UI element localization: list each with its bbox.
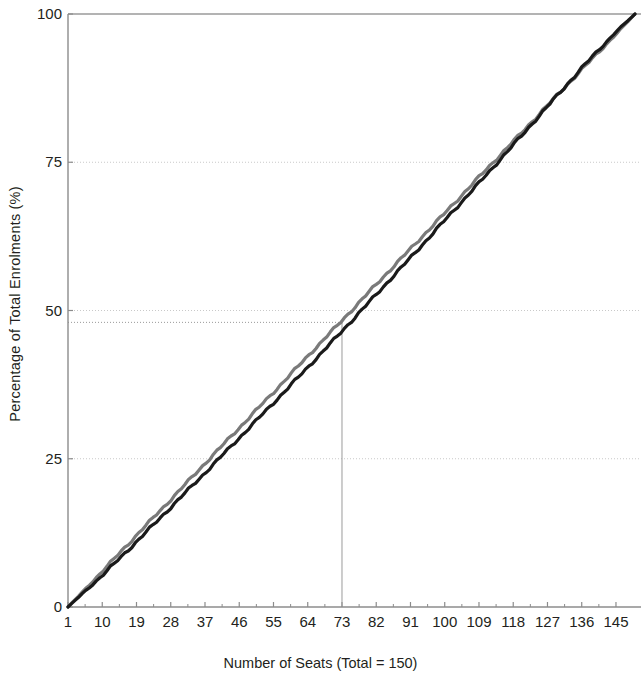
x-tick-label-64: 64 [299,614,316,629]
data-series [68,14,635,607]
x-axis-tick-labels: 110192837465564738291100109118127136145 [0,614,641,642]
plot-svg [0,0,641,683]
x-tick-label-1: 1 [64,614,72,629]
x-axis-title: Number of Seats (Total = 150) [0,655,641,671]
x-tick-label-46: 46 [231,614,248,629]
x-tick-label-82: 82 [368,614,385,629]
x-tick-label-118: 118 [501,614,525,629]
x-tick-label-28: 28 [162,614,179,629]
x-tick-label-127: 127 [535,614,560,629]
x-tick-label-136: 136 [569,614,594,629]
x-tick-label-109: 109 [466,614,491,629]
gridlines [68,14,641,459]
x-tick-label-73: 73 [334,614,351,629]
cumulative-enrolment-chart: Percentage of Total Enrolments (%) 10075… [0,0,641,683]
x-tick-label-10: 10 [94,614,111,629]
x-tick-label-145: 145 [603,614,628,629]
x-tick-label-19: 19 [128,614,145,629]
plot-area [68,14,635,607]
x-tick-label-91: 91 [402,614,419,629]
x-tick-label-100: 100 [432,614,457,629]
x-tick-label-37: 37 [197,614,214,629]
x-tick-label-55: 55 [265,614,282,629]
